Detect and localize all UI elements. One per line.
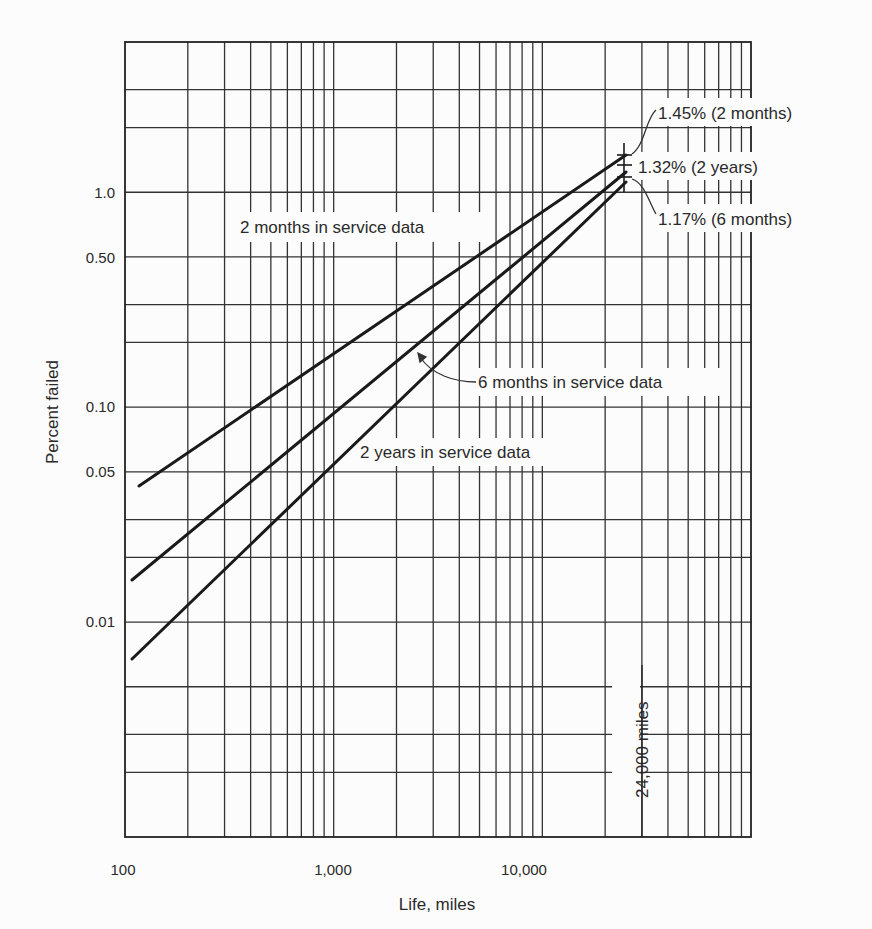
label-6-months: 6 months in service data <box>478 373 663 392</box>
x-tick-1000: 1,000 <box>314 861 352 878</box>
y-tick-0-05: 0.05 <box>86 463 115 480</box>
label-2-years: 2 years in service data <box>360 443 531 462</box>
x-axis-title: Life, miles <box>399 895 476 914</box>
leader-1-17 <box>632 179 656 214</box>
y-tick-0-10: 0.10 <box>86 398 115 415</box>
annotation-1-17: 1.17% (6 months) <box>658 210 792 229</box>
y-tick-0-01: 0.01 <box>86 613 115 630</box>
y-axis-title: Percent failed <box>43 360 62 464</box>
line-2-months <box>139 155 626 486</box>
annotation-24000: 24,000 miles <box>633 702 652 798</box>
y-tick-1-0: 1.0 <box>94 184 115 201</box>
y-tick-0-50: 0.50 <box>86 249 115 266</box>
x-tick-100: 100 <box>110 861 135 878</box>
annotation-1-45: 1.45% (2 months) <box>658 104 792 123</box>
x-tick-10000: 10,000 <box>501 861 547 878</box>
arrow-6-months <box>418 353 426 362</box>
weibull-failure-chart: 2 months in service data 6 months in ser… <box>0 0 872 929</box>
leader-6-months <box>420 357 476 382</box>
line-2-years <box>132 182 626 659</box>
leader-1-45 <box>632 110 656 154</box>
label-2-months: 2 months in service data <box>240 218 425 237</box>
annotation-1-32: 1.32% (2 years) <box>638 158 758 177</box>
